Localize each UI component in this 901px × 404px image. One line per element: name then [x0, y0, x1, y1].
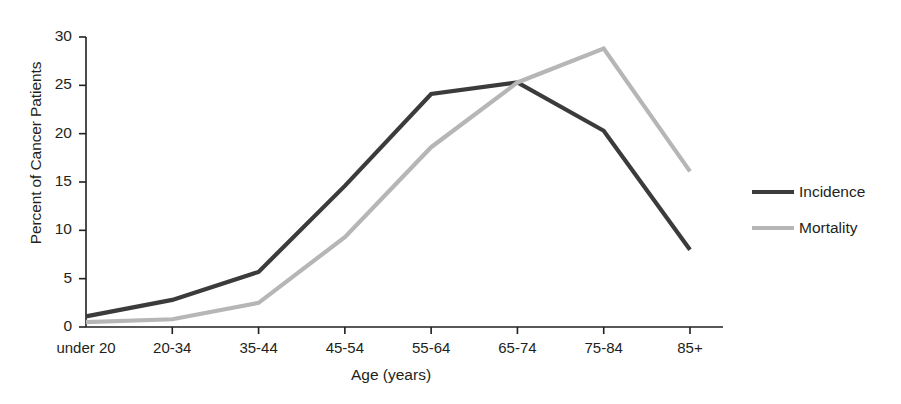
- chart-figure: Percent of Cancer Patients Age (years) 0…: [0, 0, 901, 404]
- legend-label-mortality: Mortality: [799, 220, 858, 236]
- chart-legend: Incidence Mortality: [752, 174, 892, 246]
- x-axis-tick-label: under 20: [56, 339, 115, 356]
- y-axis-tick-label: 30: [38, 27, 72, 45]
- x-axis-tick-label: 55-64: [412, 339, 450, 356]
- x-axis-tick-label: 45-54: [326, 339, 364, 356]
- x-axis-tick-label: 20-34: [153, 339, 191, 356]
- y-axis-tick-label: 5: [38, 269, 72, 287]
- x-axis-title: Age (years): [86, 366, 696, 384]
- legend-swatch-incidence: [752, 190, 794, 194]
- series-line-incidence: [86, 82, 690, 316]
- legend-item-mortality[interactable]: Mortality: [752, 210, 892, 246]
- y-axis-tick-label: 25: [38, 75, 72, 93]
- series-line-mortality: [86, 49, 690, 323]
- y-axis-tick-label: 0: [38, 317, 72, 335]
- x-axis-tick-label: 35-44: [239, 339, 277, 356]
- legend-item-incidence[interactable]: Incidence: [752, 174, 892, 210]
- y-axis-tick-label: 15: [38, 172, 72, 190]
- y-axis-tick-label: 10: [38, 220, 72, 238]
- y-axis-title: Percent of Cancer Patients: [27, 13, 45, 293]
- x-axis-tick-label: 65-74: [498, 339, 536, 356]
- y-axis-tick-label: 20: [38, 124, 72, 142]
- x-axis-tick-label: 85+: [677, 339, 702, 356]
- legend-swatch-mortality: [752, 226, 794, 230]
- x-axis-tick-label: 75-84: [585, 339, 623, 356]
- legend-label-incidence: Incidence: [799, 184, 865, 200]
- data-series-group: [86, 49, 690, 323]
